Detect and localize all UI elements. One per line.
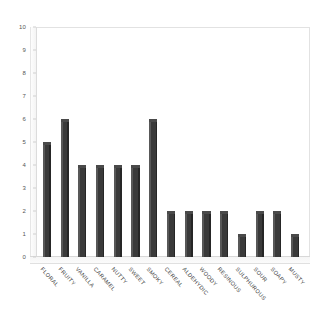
bar (167, 211, 175, 257)
bar-top-face (78, 165, 86, 168)
y-axis-tick-label: 7 (10, 93, 26, 99)
y-axis-tick-label: 6 (10, 116, 26, 122)
y-axis-tick-label: 4 (10, 162, 26, 168)
bar-shadow-edge (191, 213, 193, 257)
y-axis-tick-label: 0 (10, 254, 26, 260)
bar-top-face (256, 211, 264, 214)
bar-shadow-edge (85, 167, 87, 257)
bar-shadow-edge (174, 213, 176, 257)
bar (96, 165, 104, 257)
bar-shadow-edge (227, 213, 229, 257)
bar-top-face (96, 165, 104, 168)
bar (256, 211, 264, 257)
bar-top-face (61, 119, 69, 122)
bar-shadow-edge (245, 236, 247, 257)
bar-top-face (167, 211, 175, 214)
bar (114, 165, 122, 257)
bar (291, 234, 299, 257)
bar-shadow-edge (138, 167, 140, 257)
bar-shadow-edge (280, 213, 282, 257)
bar-shadow-edge (262, 213, 264, 257)
bar-top-face (238, 234, 246, 237)
bar-chart: 012345678910 FLORALFRUITYVANILLACARAMELN… (0, 0, 318, 322)
x-axis-tick-label: SOUR (252, 266, 268, 283)
y-axis-tick-label: 1 (10, 231, 26, 237)
bar-shadow-edge (67, 121, 69, 257)
bar (220, 211, 228, 257)
bar-shadow-edge (156, 121, 158, 257)
y-axis-tick-label: 5 (10, 139, 26, 145)
bar-top-face (202, 211, 210, 214)
x-axis-tick-label: SMOKY (146, 266, 165, 286)
bar (43, 142, 51, 257)
bar (202, 211, 210, 257)
x-axis-tick-label: SWEET (128, 266, 147, 286)
plot-area: 012345678910 (30, 27, 310, 264)
bar (78, 165, 86, 257)
bar-shadow-edge (209, 213, 211, 257)
x-axis-tick-label: SOAPY (270, 266, 289, 286)
bar-top-face (291, 234, 299, 237)
bar-shadow-edge (120, 167, 122, 257)
bar-top-face (114, 165, 122, 168)
bar-top-face (273, 211, 281, 214)
x-axis-tick-label: MUSTY (288, 266, 307, 286)
bar-top-face (185, 211, 193, 214)
y-axis-tick-label: 9 (10, 47, 26, 53)
bar (185, 211, 193, 257)
y-axis-tick-label: 2 (10, 208, 26, 214)
y-axis-tick-label: 10 (10, 24, 26, 30)
bar (131, 165, 139, 257)
bar-shadow-edge (49, 144, 51, 257)
bar (273, 211, 281, 257)
bar-top-face (43, 142, 51, 145)
bar (149, 119, 157, 257)
bar-shadow-edge (103, 167, 105, 257)
bar-top-face (220, 211, 228, 214)
x-axis-labels: FLORALFRUITYVANILLACARAMELNUTTYSWEETSMOK… (30, 266, 310, 322)
y-axis-tick-label: 8 (10, 70, 26, 76)
bars-group (30, 27, 310, 264)
x-axis-tick-label: NUTTY (110, 266, 128, 285)
bar (238, 234, 246, 257)
y-axis-tick-label: 3 (10, 185, 26, 191)
bar-top-face (131, 165, 139, 168)
bar (61, 119, 69, 257)
bar-shadow-edge (298, 236, 300, 257)
bar-top-face (149, 119, 157, 122)
